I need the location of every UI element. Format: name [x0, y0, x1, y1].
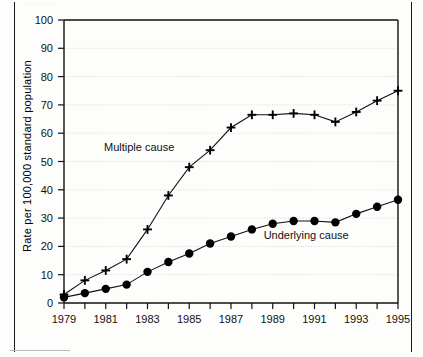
data-point-circle — [373, 203, 381, 211]
data-point-circle — [289, 217, 297, 225]
x-axis-tick-label: 1987 — [219, 313, 243, 325]
y-axis-tick-label: 50 — [41, 156, 53, 168]
data-point-circle — [102, 285, 110, 293]
data-point-circle — [81, 289, 89, 297]
y-axis-tick-label: 80 — [41, 71, 53, 83]
data-point-circle — [164, 258, 172, 266]
series-line — [64, 200, 398, 298]
y-axis-tick-label: 100 — [35, 14, 53, 26]
y-axis-tick-label: 10 — [41, 269, 53, 281]
data-point-circle — [206, 239, 214, 247]
data-point-circle — [122, 280, 130, 288]
data-point-plus — [352, 108, 361, 117]
data-point-plus — [101, 266, 110, 275]
x-axis-tick-label: 1991 — [302, 313, 326, 325]
data-point-plus — [289, 109, 298, 118]
data-point-circle — [185, 249, 193, 257]
x-axis-tick-label: 1983 — [135, 313, 159, 325]
data-point-plus — [310, 110, 319, 119]
data-point-plus — [143, 225, 152, 234]
x-axis-tick-label: 1989 — [261, 313, 285, 325]
data-point-plus — [247, 110, 256, 119]
data-point-circle — [269, 220, 277, 228]
data-point-circle — [331, 218, 339, 226]
y-axis-tick-label: 40 — [41, 184, 53, 196]
y-axis-tick-label: 90 — [41, 42, 53, 54]
figure-panel: ···· ···· Rate per 100,000 standard popu… — [0, 0, 423, 357]
data-point-circle — [310, 217, 318, 225]
data-point-plus — [80, 276, 89, 285]
data-point-plus — [122, 255, 131, 264]
x-axis-tick-label: 1979 — [52, 313, 76, 325]
x-axis-tick-label: 1993 — [344, 313, 368, 325]
data-point-circle — [227, 232, 235, 240]
y-axis-tick-label: 60 — [41, 127, 53, 139]
x-axis-tick-label: 1985 — [177, 313, 201, 325]
y-axis-tick-label: 0 — [47, 297, 53, 309]
y-axis-tick-label: 20 — [41, 240, 53, 252]
line-chart: 0102030405060708090100197919811983198519… — [0, 0, 423, 357]
y-axis-tick-label: 70 — [41, 99, 53, 111]
series-annotation-label: Multiple cause — [104, 141, 174, 153]
series-line — [64, 91, 398, 295]
series-annotation-label: Underlying cause — [264, 229, 349, 241]
data-point-plus — [394, 86, 403, 95]
x-axis-tick-label: 1995 — [386, 313, 410, 325]
data-point-circle — [394, 196, 402, 204]
data-point-plus — [268, 110, 277, 119]
data-point-plus — [373, 96, 382, 105]
data-point-plus — [164, 191, 173, 200]
data-point-circle — [352, 210, 360, 218]
data-point-circle — [143, 268, 151, 276]
x-axis-tick-label: 1981 — [94, 313, 118, 325]
data-point-circle — [60, 293, 68, 301]
y-axis-tick-label: 30 — [41, 212, 53, 224]
data-point-circle — [248, 225, 256, 233]
data-point-plus — [331, 117, 340, 126]
